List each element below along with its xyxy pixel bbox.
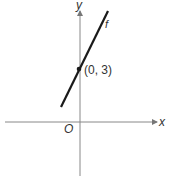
point-label: (0, 3): [84, 63, 112, 77]
line-label-f: f: [105, 18, 109, 30]
y-intercept-point: [77, 67, 82, 72]
line-f: [61, 11, 108, 107]
y-axis-label: y: [75, 0, 83, 12]
coordinate-plane: y x O f (0, 3): [0, 0, 173, 186]
origin-label: O: [64, 122, 73, 136]
x-axis-label: x: [158, 115, 166, 129]
